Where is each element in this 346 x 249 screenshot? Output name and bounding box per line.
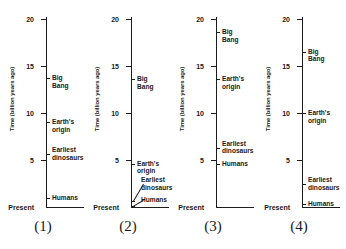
y-axis-tick-label: 15 bbox=[4, 66, 34, 67]
y-axis-tick bbox=[211, 19, 216, 20]
y-axis-tick bbox=[297, 66, 302, 67]
event-marker bbox=[302, 52, 306, 53]
y-axis-line bbox=[46, 17, 47, 208]
event-label: Earth's origin bbox=[222, 75, 244, 90]
event-marker bbox=[216, 32, 220, 33]
event-label: Humans bbox=[52, 194, 78, 202]
y-axis-tick-label: 20 bbox=[174, 19, 204, 20]
y-axis-title: Time (billion years ago) bbox=[179, 54, 185, 144]
event-label: Earliest dinosaurs bbox=[222, 140, 254, 155]
event-marker bbox=[216, 148, 220, 149]
event-marker bbox=[216, 164, 220, 165]
y-axis-tick-label: 15 bbox=[260, 66, 290, 67]
event-marker bbox=[46, 78, 50, 79]
event-label: Big Bang bbox=[308, 48, 324, 63]
y-axis-tick-label: 10 bbox=[174, 113, 204, 114]
event-marker bbox=[302, 113, 306, 114]
present-label: Present bbox=[0, 207, 34, 208]
y-axis-tick bbox=[297, 19, 302, 20]
y-axis-tick-label: 20 bbox=[89, 19, 119, 20]
y-axis-tick-label: 5 bbox=[260, 160, 290, 161]
timeline-panel: Time (billion years ago)5101520PresentBi… bbox=[85, 0, 171, 249]
y-axis-tick bbox=[211, 160, 216, 161]
y-axis-tick-label: 15 bbox=[174, 66, 204, 67]
event-marker bbox=[46, 122, 50, 123]
present-label: Present bbox=[77, 207, 119, 208]
event-marker bbox=[302, 184, 306, 185]
panel-caption: (2) bbox=[85, 218, 171, 235]
panel-caption: (4) bbox=[256, 218, 342, 235]
y-axis-tick bbox=[41, 160, 46, 161]
event-label: Earliest dinosaurs bbox=[308, 176, 340, 191]
y-axis-title: Time (billion years ago) bbox=[265, 54, 271, 144]
y-axis-title: Time (billion years ago) bbox=[94, 54, 100, 144]
y-axis-tick-label: 5 bbox=[4, 160, 34, 161]
event-label: Earliest dinosaurs bbox=[141, 176, 173, 191]
timeline-panel: Time (billion years ago)5101520PresentBi… bbox=[256, 0, 342, 249]
y-axis-tick-label: 15 bbox=[89, 66, 119, 67]
event-label: Big Bang bbox=[222, 28, 238, 43]
event-label: Big Bang bbox=[137, 75, 153, 90]
y-axis-tick-label: 10 bbox=[4, 113, 34, 114]
event-label: Earliest dinosaurs bbox=[52, 146, 84, 161]
y-axis-tick-label: 5 bbox=[174, 160, 204, 161]
event-label: Earth's origin bbox=[52, 118, 74, 133]
y-axis-tick bbox=[41, 113, 46, 114]
y-axis-tick-label: 10 bbox=[89, 113, 119, 114]
y-axis-tick bbox=[211, 66, 216, 67]
event-marker bbox=[131, 79, 135, 80]
event-marker bbox=[131, 164, 135, 165]
y-axis-tick bbox=[126, 113, 131, 114]
y-axis-tick-label: 20 bbox=[260, 19, 290, 20]
y-axis-tick bbox=[126, 160, 131, 161]
event-label: Earth's origin bbox=[308, 109, 330, 124]
timeline-panel: Time (billion years ago)5101520PresentBi… bbox=[0, 0, 86, 249]
panel-caption: (1) bbox=[0, 218, 86, 235]
y-axis-tick bbox=[41, 66, 46, 67]
y-axis-tick-label: 5 bbox=[89, 160, 119, 161]
event-label: Humans bbox=[308, 200, 334, 208]
timeline-panel: Time (billion years ago)5101520PresentBi… bbox=[170, 0, 256, 249]
event-marker bbox=[46, 154, 50, 155]
y-axis-title: Time (billion years ago) bbox=[9, 54, 15, 144]
present-label: Present bbox=[162, 207, 204, 208]
event-marker bbox=[46, 198, 50, 199]
event-marker bbox=[216, 79, 220, 80]
y-axis-line bbox=[131, 17, 132, 208]
event-label: Earth's origin bbox=[137, 160, 159, 175]
y-axis-tick bbox=[41, 19, 46, 20]
y-axis-tick bbox=[126, 66, 131, 67]
y-axis-tick bbox=[297, 160, 302, 161]
y-axis-tick-label: 10 bbox=[260, 113, 290, 114]
event-label: Big Bang bbox=[52, 74, 68, 89]
event-marker bbox=[302, 204, 306, 205]
y-axis-tick bbox=[126, 19, 131, 20]
y-axis-tick-label: 20 bbox=[4, 19, 34, 20]
y-axis-line bbox=[216, 17, 217, 208]
event-label: Humans bbox=[141, 196, 167, 204]
y-axis-tick bbox=[211, 113, 216, 114]
present-label: Present bbox=[248, 207, 290, 208]
event-label: Humans bbox=[222, 160, 248, 168]
panel-caption: (3) bbox=[170, 218, 256, 235]
timeline-figure: Time (billion years ago)5101520PresentBi… bbox=[0, 0, 346, 249]
